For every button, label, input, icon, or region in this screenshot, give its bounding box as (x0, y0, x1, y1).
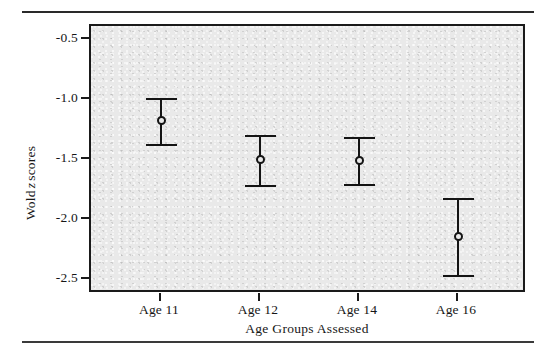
data-point-marker (454, 232, 463, 241)
x-tick-mark (456, 293, 458, 301)
y-tick-label: -0.5 (56, 31, 78, 45)
errorbar-upper-cap (146, 98, 177, 100)
y-axis-title-italic-z: z (23, 181, 38, 190)
data-point-marker (157, 116, 166, 125)
x-tick-mark (258, 293, 260, 301)
x-tick-mark (357, 293, 359, 301)
y-axis-title-prefix: Wold (23, 190, 38, 220)
x-axis-title: Age Groups Assessed (89, 321, 525, 337)
y-axis-title-suffix: scores (23, 146, 38, 181)
data-point-marker (256, 155, 265, 164)
errorbar-upper-cap (344, 137, 375, 139)
y-tick-label: -2.0 (56, 211, 78, 225)
errorbar-lower-cap (245, 185, 276, 187)
x-tick-mark (159, 293, 161, 301)
x-tick-label: Age 11 (114, 303, 204, 318)
x-tick-label: Age 16 (411, 303, 501, 318)
plot-area (89, 24, 525, 292)
errorbar-lower-cap (146, 144, 177, 146)
x-tick-label: Age 14 (312, 303, 402, 318)
errorbar-lower-cap (344, 184, 375, 186)
y-tick-label: -1.5 (56, 151, 78, 165)
error-bar-chart: Woldzscores -0.5 -1.0 -1.5 -2.0 -2.5 Age… (0, 0, 556, 359)
errorbar-upper-cap (245, 135, 276, 137)
x-tick-label: Age 12 (213, 303, 303, 318)
y-tick-label: -2.5 (56, 271, 78, 285)
errorbar-upper-cap (443, 198, 474, 200)
errorbar-lower-cap (443, 275, 474, 277)
data-point-marker (355, 156, 364, 165)
y-tick-label: -1.0 (56, 91, 78, 105)
